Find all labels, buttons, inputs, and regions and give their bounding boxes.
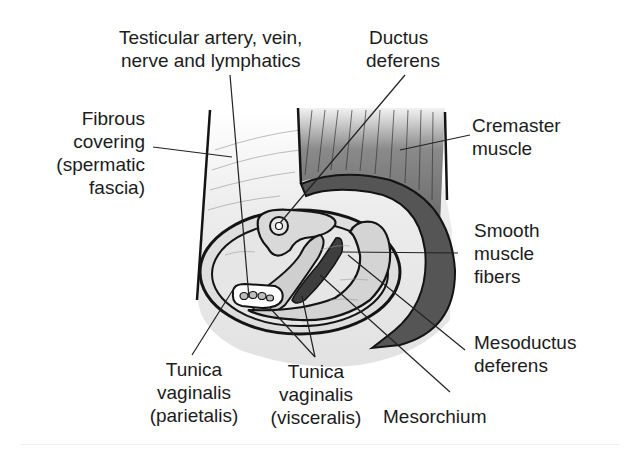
label-mesorchium: Mesorchium: [383, 405, 486, 428]
label-fibrous-covering: Fibrous covering (spermatic fascia): [56, 107, 145, 199]
bottom-divider: [20, 444, 620, 445]
label-mesoductus-deferens: Mesoductus deferens: [474, 331, 576, 377]
label-tunica-vaginalis-visceralis: Tunica vaginalis (visceralis): [262, 360, 370, 429]
label-ductus-deferens: Ductus deferens: [366, 26, 440, 72]
testicular-vessels: [233, 284, 283, 308]
label-smooth-muscle-fibers: Smooth muscle fibers: [474, 219, 539, 288]
label-cremaster-muscle: Cremaster muscle: [472, 114, 561, 160]
cross-section: [200, 210, 400, 334]
label-tunica-vaginalis-parietalis: Tunica vaginalis (parietalis): [140, 358, 248, 427]
label-testicular-vessels: Testicular artery, vein, nerve and lymph…: [119, 26, 302, 72]
